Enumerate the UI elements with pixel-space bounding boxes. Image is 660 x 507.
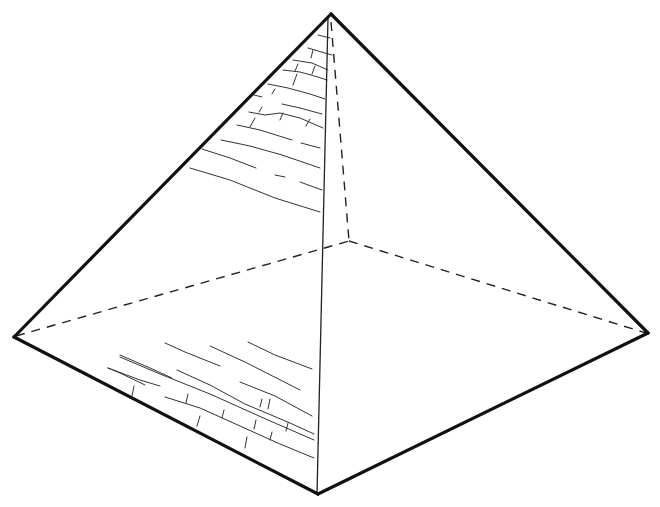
pyramid-diagram <box>0 0 660 507</box>
right-face <box>318 14 648 494</box>
left-face <box>14 14 331 494</box>
